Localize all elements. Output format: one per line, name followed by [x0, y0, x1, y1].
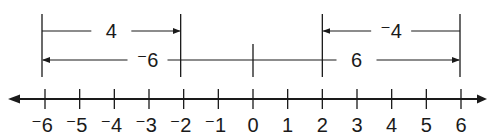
tick-label: 0: [247, 114, 258, 136]
vector-label: 4: [106, 20, 117, 42]
tick-label: 6: [455, 114, 466, 136]
tick-label: ⁻4: [100, 114, 122, 136]
tick-label: 2: [317, 114, 328, 136]
vector-label: 6: [351, 49, 362, 71]
right-arrowhead-icon: [477, 95, 487, 104]
vector-arrow: 4: [42, 20, 180, 42]
tick-label: ⁻2: [170, 114, 192, 136]
tick-label: 4: [386, 114, 397, 136]
tick-label: ⁻5: [66, 114, 88, 136]
left-arrowhead-icon: [8, 95, 20, 104]
addition-vectors: 4⁻6⁻46: [42, 20, 460, 71]
vector-label: ⁻4: [380, 20, 402, 42]
tick-label: 3: [351, 114, 362, 136]
vector-label: ⁻6: [137, 49, 159, 71]
tick-label: ⁻3: [135, 114, 157, 136]
vector-arrow: 6: [253, 49, 459, 71]
vector-arrow: ⁻6: [43, 49, 253, 71]
vector-arrow: ⁻4: [323, 20, 460, 42]
tick-label: 5: [421, 114, 432, 136]
tick-label: ⁻1: [204, 114, 226, 136]
tick-labels: ⁻6⁻5⁻4⁻3⁻2⁻10123456: [31, 114, 466, 136]
number-line-diagram: ⁻6⁻5⁻4⁻3⁻2⁻10123456 4⁻6⁻46: [0, 0, 487, 139]
tick-label: 1: [282, 114, 293, 136]
tick-label: ⁻6: [31, 114, 53, 136]
